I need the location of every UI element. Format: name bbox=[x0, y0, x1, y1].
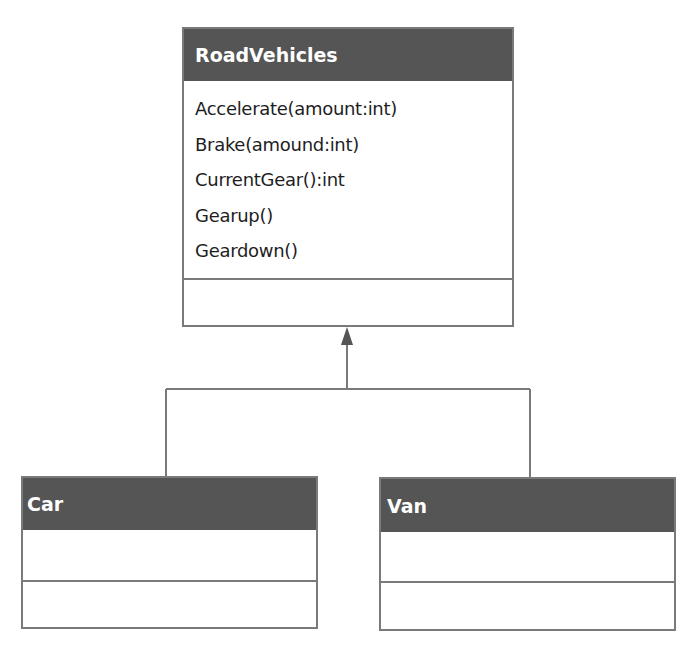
method-accelerate: Accelerate(amount:int) bbox=[184, 91, 512, 127]
class-car[interactable]: Car bbox=[21, 476, 318, 629]
van-attributes-section bbox=[381, 532, 674, 581]
van-methods-section bbox=[381, 581, 674, 629]
class-name-van: Van bbox=[381, 479, 674, 532]
method-current-gear: CurrentGear():int bbox=[184, 162, 512, 198]
generalization-arrow-icon bbox=[341, 327, 353, 345]
class-van[interactable]: Van bbox=[379, 477, 676, 631]
class-roadvehicles[interactable]: RoadVehicles Accelerate(amount:int) Brak… bbox=[182, 27, 514, 327]
method-gearup: Gearup() bbox=[184, 198, 512, 234]
method-geardown: Geardown() bbox=[184, 233, 512, 269]
method-brake: Brake(amound:int) bbox=[184, 127, 512, 163]
car-attributes-section bbox=[23, 530, 316, 580]
attributes-section bbox=[184, 278, 512, 325]
methods-section: Accelerate(amount:int) Brake(amound:int)… bbox=[184, 81, 512, 278]
class-name-roadvehicles: RoadVehicles bbox=[184, 29, 512, 81]
car-methods-section bbox=[23, 580, 316, 627]
class-name-car: Car bbox=[23, 478, 316, 530]
